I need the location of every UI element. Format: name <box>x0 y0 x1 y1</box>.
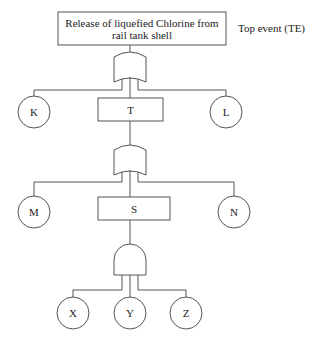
label-y: Y <box>114 297 146 329</box>
label-s: S <box>98 197 170 220</box>
label-t: T <box>98 98 163 121</box>
connector-m <box>34 182 122 196</box>
label-x: X <box>57 297 89 329</box>
connector-z <box>138 290 186 297</box>
fault-tree-diagram <box>0 0 322 344</box>
top-event-line2: rail tank shell <box>112 29 172 41</box>
connector-x <box>73 290 122 297</box>
label-k: K <box>18 96 50 128</box>
connector-n <box>138 182 234 196</box>
top-event-line1: Release of liquefied Chlorine from <box>65 17 218 29</box>
and-gate-icon <box>114 244 146 275</box>
top-event-annotation: Top event (TE) <box>238 22 318 34</box>
label-m: M <box>18 196 50 228</box>
label-z: Z <box>170 297 202 329</box>
label-n: N <box>218 196 250 228</box>
top-event-label: Release of liquefied Chlorine from rail … <box>58 12 226 45</box>
label-l: L <box>210 96 242 128</box>
